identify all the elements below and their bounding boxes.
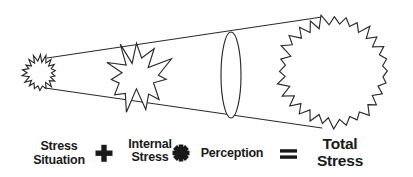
multiply-operator-bar-d	[173, 151, 190, 156]
diagram-canvas: Stress Situation Internal Stress Percept…	[0, 0, 413, 177]
stress-equation-diagram: Stress Situation Internal Stress Percept…	[0, 0, 413, 177]
cone-top-line	[47, 17, 322, 58]
term-internal-stress-line1: Internal	[128, 137, 172, 151]
term-perception: Perception	[201, 146, 264, 160]
equals-operator	[280, 149, 297, 159]
plus-operator	[96, 145, 113, 162]
small-starburst	[22, 55, 55, 91]
multiply-operator	[169, 141, 193, 165]
term-perception-line1: Perception	[201, 146, 264, 160]
term-stress-situation-line2: Situation	[33, 153, 85, 167]
cone-bottom-line	[45, 88, 322, 128]
large-starburst	[278, 15, 388, 129]
term-stress-situation: Stress Situation	[33, 139, 85, 167]
equals-operator-bar-top	[280, 149, 297, 152]
term-stress-situation-line1: Stress	[40, 139, 77, 153]
term-total-stress-line2: Stress	[317, 152, 363, 169]
term-total-stress: Total Stress	[317, 135, 363, 169]
term-internal-stress: Internal Stress	[128, 137, 172, 164]
equals-operator-bar-bottom	[280, 155, 297, 158]
lens-ellipse	[221, 32, 241, 118]
plus-operator-vertical	[101, 145, 106, 162]
term-internal-stress-line2: Stress	[131, 150, 168, 164]
term-total-stress-line1: Total	[323, 135, 358, 152]
